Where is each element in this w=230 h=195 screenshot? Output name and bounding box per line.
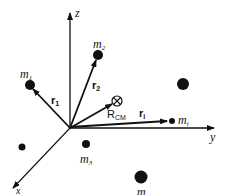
mass-mi — [169, 118, 175, 124]
m1-label: m1 — [20, 68, 32, 82]
mass-unlabeled-right — [177, 78, 189, 90]
center-of-mass-diagram — [0, 0, 230, 195]
r1-label: r1 — [51, 95, 59, 107]
z-axis-label: z — [75, 7, 80, 19]
m3-label: m3 — [80, 153, 92, 167]
x-axis — [13, 128, 70, 188]
m-label: m — [137, 186, 146, 195]
ri-vector — [70, 121, 167, 127]
mass-m — [135, 171, 148, 184]
r2-vector — [70, 60, 96, 128]
center-of-mass-icon — [112, 96, 122, 106]
mass-m3 — [82, 140, 90, 148]
r2-label: r2 — [92, 80, 100, 92]
mass-unlabeled-left — [19, 144, 26, 151]
ri-label: ri — [139, 108, 145, 120]
x-axis-label: x — [16, 186, 20, 195]
rcm-label: RCM — [107, 109, 126, 121]
m2-label: m2 — [93, 38, 105, 52]
y-axis-label: y — [210, 131, 215, 143]
mi-label: mi — [178, 114, 189, 128]
